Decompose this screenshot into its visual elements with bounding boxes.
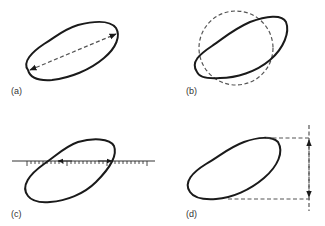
particle-outline-b: [195, 17, 288, 79]
particle-measurement-diagram: (a) (b): [0, 0, 325, 226]
panel-a: (a): [11, 22, 118, 96]
panel-b: (b): [186, 11, 287, 96]
longest-dimension-arrow: [30, 34, 116, 70]
particle-outline-c: [25, 139, 115, 202]
panel-c: (c): [11, 139, 155, 219]
particle-outline-d: [188, 138, 281, 199]
panel-label-d: (d): [186, 209, 197, 219]
panel-label-a: (a): [11, 86, 22, 96]
panel-label-c: (c): [11, 209, 22, 219]
panel-d: (d): [186, 125, 310, 219]
particle-outline-a: [26, 22, 118, 80]
panel-label-b: (b): [186, 86, 197, 96]
